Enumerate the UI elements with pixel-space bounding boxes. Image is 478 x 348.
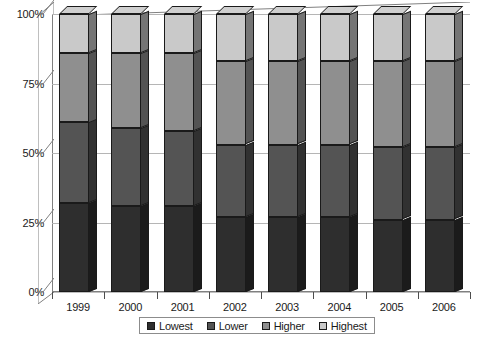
legend-swatch-higher — [262, 322, 270, 330]
bar-segment-lowest[interactable] — [216, 217, 246, 292]
bar-segment-side — [194, 203, 202, 292]
bar-segment-side — [350, 11, 358, 61]
bar-segment-highest[interactable] — [164, 14, 194, 53]
bar-segment-side — [350, 141, 358, 216]
legend-item-lower[interactable]: Lower — [207, 320, 248, 332]
bar-stack — [111, 14, 141, 292]
bar-segment-lowest[interactable] — [164, 206, 194, 292]
x-axis-label-2002: 2002 — [223, 301, 247, 313]
bar-segment-side — [141, 203, 149, 292]
bar-segment-highest[interactable] — [320, 14, 350, 61]
x-axis-tick — [209, 292, 210, 299]
bar-segment-side — [403, 217, 411, 292]
x-axis-label-1999: 1999 — [66, 301, 90, 313]
bar-segment-side — [194, 128, 202, 206]
bar-segment-side — [246, 214, 254, 292]
bar-segment-side — [403, 11, 411, 61]
bar-segment-lower[interactable] — [268, 145, 298, 217]
bar-segment-side — [455, 11, 463, 61]
bar-segment-side — [89, 11, 97, 53]
legend-item-lowest[interactable]: Lowest — [147, 320, 193, 332]
y-axis-tick-25 — [38, 209, 54, 224]
bar-segment-highest[interactable] — [111, 14, 141, 53]
bar-stack — [216, 14, 246, 292]
bar-segment-higher[interactable] — [268, 61, 298, 144]
x-axis-tick — [104, 292, 105, 299]
bar-segment-side — [298, 214, 306, 292]
y-axis: 0%25%50%75%100% — [0, 0, 52, 310]
bar-segment-side — [403, 144, 411, 219]
bar-segment-higher[interactable] — [216, 61, 246, 144]
bar-segment-highest[interactable] — [59, 14, 89, 53]
bar-segment-side — [194, 11, 202, 53]
x-axis-tick — [313, 292, 314, 299]
x-axis-label-2003: 2003 — [275, 301, 299, 313]
bar-1999[interactable] — [59, 14, 89, 292]
bar-2004[interactable] — [320, 14, 350, 292]
bar-segment-lower[interactable] — [216, 145, 246, 217]
x-axis-label-2000: 2000 — [119, 301, 143, 313]
bar-2006[interactable] — [425, 14, 455, 292]
bar-segment-side — [455, 58, 463, 147]
bar-2002[interactable] — [216, 14, 246, 292]
bar-segment-lowest[interactable] — [268, 217, 298, 292]
legend-label: Highest — [331, 320, 367, 332]
bar-segment-higher[interactable] — [164, 53, 194, 131]
bar-segment-highest[interactable] — [216, 14, 246, 61]
legend-label: Lowest — [159, 320, 193, 332]
bar-segment-lower[interactable] — [373, 147, 403, 219]
y-axis-tick-75 — [38, 70, 54, 85]
bar-2001[interactable] — [164, 14, 194, 292]
bar-segment-lower[interactable] — [320, 145, 350, 217]
bar-segment-side — [246, 11, 254, 61]
bar-segment-side — [141, 11, 149, 53]
bar-segment-higher[interactable] — [373, 61, 403, 147]
bar-segment-side — [298, 58, 306, 145]
bar-segment-side — [298, 11, 306, 61]
bar-segment-lower[interactable] — [164, 131, 194, 206]
bar-stack — [425, 14, 455, 292]
bar-segment-higher[interactable] — [320, 61, 350, 144]
bar-segment-side — [298, 141, 306, 216]
bar-segment-side — [246, 141, 254, 216]
bar-segment-lower[interactable] — [59, 122, 89, 203]
bar-segment-lowest[interactable] — [425, 220, 455, 292]
bar-segment-side — [89, 119, 97, 203]
legend-label: Higher — [274, 320, 305, 332]
bar-segment-side — [194, 50, 202, 131]
bar-segment-highest[interactable] — [268, 14, 298, 61]
bar-segment-lowest[interactable] — [111, 206, 141, 292]
legend-swatch-lower — [207, 322, 215, 330]
bar-2000[interactable] — [111, 14, 141, 292]
bar-segment-higher[interactable] — [111, 53, 141, 128]
bar-segment-lowest[interactable] — [373, 220, 403, 292]
bar-segment-lower[interactable] — [111, 128, 141, 206]
bar-segment-higher[interactable] — [59, 53, 89, 123]
legend-item-highest[interactable]: Highest — [319, 320, 367, 332]
x-axis-tick — [418, 292, 419, 299]
x-axis-tick — [261, 292, 262, 299]
y-axis-tick-100 — [38, 0, 54, 15]
bar-stack — [268, 14, 298, 292]
x-axis-label-2006: 2006 — [432, 301, 456, 313]
bar-segment-side — [350, 58, 358, 145]
x-axis-label-2004: 2004 — [328, 301, 352, 313]
legend-swatch-lowest — [147, 322, 155, 330]
bar-stack — [164, 14, 194, 292]
bar-segment-side — [403, 58, 411, 147]
x-axis-tick — [470, 292, 471, 299]
bar-segment-lower[interactable] — [425, 147, 455, 219]
legend-item-higher[interactable]: Higher — [262, 320, 305, 332]
bar-2005[interactable] — [373, 14, 403, 292]
x-axis: 19992000200120022003200420052006 — [52, 292, 472, 316]
bar-2003[interactable] — [268, 14, 298, 292]
bar-segment-higher[interactable] — [425, 61, 455, 147]
bar-stack — [59, 14, 89, 292]
bar-segment-highest[interactable] — [373, 14, 403, 61]
bar-segment-lowest[interactable] — [320, 217, 350, 292]
bar-segment-side — [246, 58, 254, 145]
y-axis-tick-50 — [38, 139, 54, 154]
bar-segment-lowest[interactable] — [59, 203, 89, 292]
x-axis-label-2001: 2001 — [171, 301, 195, 313]
bar-segment-highest[interactable] — [425, 14, 455, 61]
